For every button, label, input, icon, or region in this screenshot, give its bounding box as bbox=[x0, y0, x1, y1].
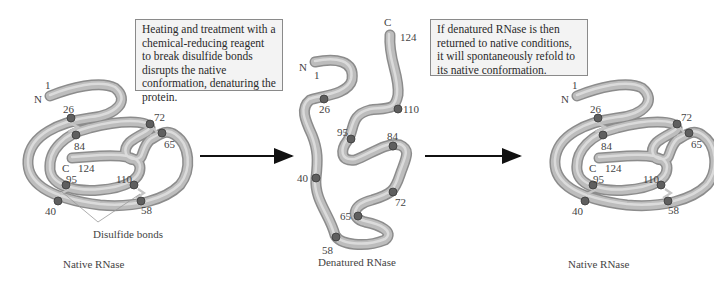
terminal-n: N bbox=[299, 61, 307, 73]
residue-72: 72 bbox=[681, 111, 692, 123]
terminal-c: C bbox=[384, 16, 391, 28]
residue-84: 84 bbox=[387, 130, 399, 142]
residue-72: 72 bbox=[395, 196, 406, 208]
residue-124: 124 bbox=[605, 162, 622, 174]
residue-110: 110 bbox=[116, 173, 133, 185]
residue-26: 26 bbox=[590, 103, 602, 115]
residue-110: 110 bbox=[403, 103, 420, 115]
residue-40: 40 bbox=[45, 205, 57, 217]
residue-124: 124 bbox=[78, 162, 95, 174]
residue-26: 26 bbox=[63, 103, 75, 115]
residue-58: 58 bbox=[668, 204, 680, 216]
denatured-rnase: N 1 C 124 26 110 95 84 40 72 65 58 bbox=[297, 16, 420, 256]
residue-95: 95 bbox=[337, 126, 349, 138]
residue-95: 95 bbox=[66, 173, 78, 185]
residue-65: 65 bbox=[691, 138, 703, 150]
residue-1: 1 bbox=[314, 69, 320, 81]
residue-84: 84 bbox=[74, 140, 86, 152]
residue-65: 65 bbox=[340, 210, 352, 222]
residue-58: 58 bbox=[141, 204, 153, 216]
denaturation-note: Heating and treatment with a chemical-re… bbox=[135, 19, 283, 91]
residue-1: 1 bbox=[45, 79, 51, 91]
residue-72: 72 bbox=[154, 111, 165, 123]
residue-84: 84 bbox=[601, 140, 613, 152]
caption-native-right: Native RNase bbox=[568, 258, 629, 270]
native-rnase-right: 1 N 26 84 72 65 C 124 95 110 40 58 bbox=[555, 79, 714, 217]
terminal-n: N bbox=[561, 93, 569, 105]
residue-65: 65 bbox=[164, 138, 176, 150]
residue-58: 58 bbox=[322, 244, 334, 256]
residue-110: 110 bbox=[643, 173, 660, 185]
disulfide-bonds-label: Disulfide bonds bbox=[93, 228, 163, 240]
residue-1: 1 bbox=[572, 79, 578, 91]
terminal-n: N bbox=[34, 93, 42, 105]
residue-26: 26 bbox=[319, 103, 331, 115]
caption-native-left: Native RNase bbox=[63, 258, 124, 270]
residue-40: 40 bbox=[297, 172, 309, 184]
residue-95: 95 bbox=[593, 173, 605, 185]
rnase-diagram: 1 N 26 84 72 65 C 124 95 110 40 58 Disul… bbox=[0, 0, 714, 281]
residue-124: 124 bbox=[400, 31, 417, 43]
refolding-note: If denatured RNase is then returned to n… bbox=[430, 19, 588, 76]
caption-denatured: Denatured RNase bbox=[318, 256, 396, 268]
residue-40: 40 bbox=[572, 205, 584, 217]
